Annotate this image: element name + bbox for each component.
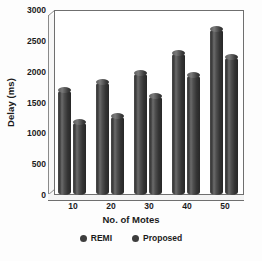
x-axis-tick-labels: 1020304050 (54, 201, 244, 215)
bar-proposed-20 (111, 116, 124, 195)
plot-floor (48, 194, 244, 201)
y-axis-title-text: Delay (ms) (6, 78, 17, 127)
bar-top-cap (134, 70, 147, 76)
bar-proposed-50 (225, 57, 238, 195)
bar-proposed-40 (187, 75, 200, 195)
y-axis-tick-label: 3000 (27, 5, 46, 15)
bar-remi-50 (210, 29, 223, 196)
y-axis-tick-label: 500 (32, 159, 46, 169)
y-axis-tick-label: 2000 (27, 67, 46, 77)
circle-marker-icon (80, 235, 87, 242)
x-axis-title: No. of Motes (0, 214, 262, 225)
y-axis-title: Delay (ms) (0, 0, 22, 205)
x-axis-tick-label: 40 (182, 201, 191, 211)
bar-proposed-10 (73, 122, 86, 195)
bar-remi-10 (58, 90, 71, 195)
circle-marker-icon (132, 235, 139, 242)
y-axis-tick-label: 2500 (27, 36, 46, 46)
bar-top-cap (111, 113, 124, 119)
x-axis-tick-label: 10 (68, 201, 77, 211)
bar-remi-40 (172, 53, 185, 195)
bar-top-cap (225, 54, 238, 60)
bar-top-cap (210, 26, 223, 32)
x-axis-tick-label: 20 (106, 201, 115, 211)
bar-top-cap (73, 119, 86, 125)
legend-label: REMI (91, 233, 112, 243)
bar-group (210, 10, 238, 195)
bar-group (134, 10, 162, 195)
bars-layer (54, 10, 244, 195)
x-axis-tick-label: 50 (220, 201, 229, 211)
chart-legend: REMIProposed (0, 233, 262, 243)
bar-top-cap (172, 50, 185, 56)
bar-group (172, 10, 200, 195)
bar-chart-figure: Delay (ms) 050010001500200025003000 1020… (0, 0, 262, 261)
plot-area (48, 10, 244, 200)
y-axis-tick-label: 1000 (27, 128, 46, 138)
x-axis-tick-label: 30 (144, 201, 153, 211)
bar-group (58, 10, 86, 195)
bar-top-cap (149, 93, 162, 99)
y-axis-tick-labels: 050010001500200025003000 (20, 0, 48, 205)
bar-group (96, 10, 124, 195)
legend-label: Proposed (143, 233, 182, 243)
bar-proposed-30 (149, 96, 162, 195)
bar-remi-20 (96, 82, 109, 195)
bar-top-cap (96, 79, 109, 85)
bar-top-cap (58, 87, 71, 93)
legend-item-remi[interactable]: REMI (80, 233, 112, 243)
y-axis-tick-label: 0 (41, 190, 46, 200)
y-axis-tick-label: 1500 (27, 98, 46, 108)
bar-top-cap (187, 72, 200, 78)
legend-item-proposed[interactable]: Proposed (132, 233, 182, 243)
bar-remi-30 (134, 73, 147, 195)
